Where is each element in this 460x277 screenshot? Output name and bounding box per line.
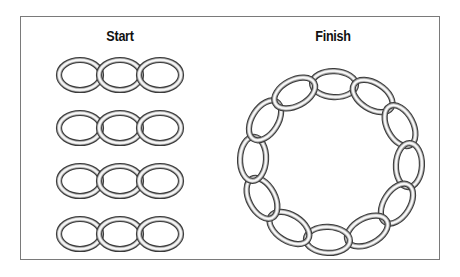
chain-illustration bbox=[0, 0, 460, 277]
finish-link bbox=[264, 205, 315, 250]
finish-link bbox=[242, 95, 287, 146]
start-link bbox=[59, 60, 101, 90]
start-link bbox=[59, 113, 101, 143]
start-chains bbox=[59, 60, 181, 249]
start-link bbox=[99, 166, 141, 196]
start-link bbox=[139, 60, 181, 90]
finish-link bbox=[395, 143, 423, 188]
start-link bbox=[59, 219, 101, 249]
finish-link bbox=[269, 71, 320, 114]
start-link bbox=[139, 219, 181, 249]
finish-link bbox=[312, 70, 357, 98]
finish-link bbox=[374, 178, 419, 229]
finish-link bbox=[305, 226, 350, 254]
start-link bbox=[99, 219, 141, 249]
start-link bbox=[99, 60, 141, 90]
finish-link bbox=[347, 73, 398, 118]
finish-link bbox=[239, 136, 267, 181]
start-link bbox=[99, 113, 141, 143]
start-link bbox=[139, 113, 181, 143]
start-link bbox=[139, 166, 181, 196]
finish-circular-chain bbox=[239, 70, 423, 254]
start-link bbox=[59, 166, 101, 196]
